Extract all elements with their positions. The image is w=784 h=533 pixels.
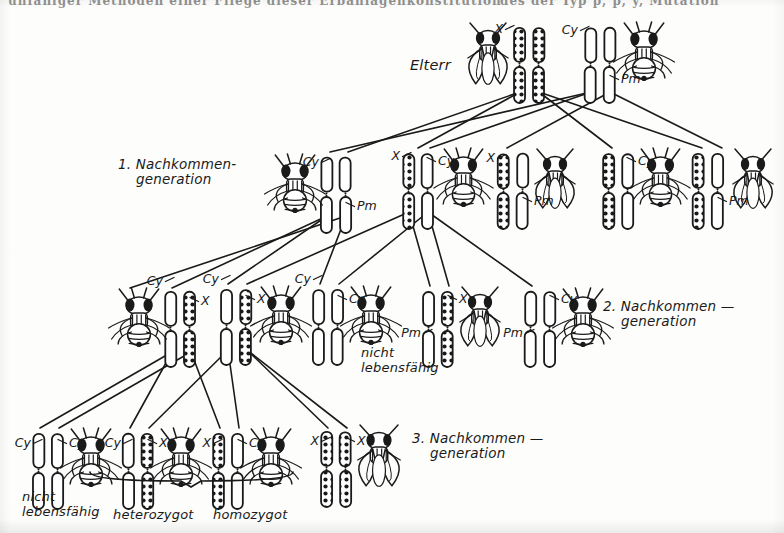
- generation-label-gen2-line2: generation: [603, 314, 735, 329]
- chromosome-tag-Cy: Cy: [303, 154, 320, 169]
- chromosome-X: [603, 154, 614, 229]
- chromosome-X: [340, 432, 352, 507]
- breeding-scheme-svg: XCyPmCyPmXCyXPmCyPmCyXCyXCyCyPmXPmCyCyCy…: [0, 0, 784, 533]
- chromosome-tag-Pm: Pm: [401, 325, 421, 340]
- generation-label-parents-line1: Elterr: [410, 57, 451, 73]
- annotation-nicht-lebensfaehig-gen3: nichtlebensfähig: [22, 490, 100, 519]
- annotation-homozygot-line1: homozygot: [213, 507, 287, 522]
- chromosome-tag-X: X: [390, 148, 400, 163]
- generation-label-gen2: 2. Nachkommen —generation: [603, 299, 735, 329]
- chromosome-X: [321, 432, 332, 507]
- chromosome-Cy: [232, 434, 243, 509]
- chromosome-tag-Cy: Cy: [15, 435, 32, 450]
- cross-line: [330, 92, 591, 152]
- group-g1-a: CyPm: [265, 154, 377, 233]
- cross-line: [430, 92, 591, 148]
- chromosome-Cy: [622, 154, 633, 229]
- fly-chromosome-groups-layer: XCyPmCyPmXCyXPmCyPmCyXCyXCyCyPmXPmCyCyCy…: [15, 21, 773, 509]
- group-g2-e: PmCy: [503, 288, 613, 367]
- chromosome-Cy: [221, 290, 232, 365]
- tag-leader-line: [314, 276, 323, 280]
- chromosome-X: [442, 292, 453, 367]
- chromosome-X: [498, 154, 509, 229]
- chromosome-Pm: [604, 28, 616, 103]
- annotation-nicht-lebensfaehig-gen2-line2: lebensfähig: [361, 361, 439, 376]
- chromosome-tag-Cy: Cy: [638, 153, 655, 168]
- chromosome-X: [514, 28, 525, 103]
- tag-leader-line: [222, 276, 231, 280]
- chromosome-tag-Cy: Cy: [249, 435, 266, 450]
- chromosome-tag-X: X: [485, 150, 495, 165]
- group-g3-c: XCy: [201, 428, 301, 509]
- chromosome-Cy: [321, 158, 332, 233]
- chromosome-Pm: [712, 154, 723, 229]
- generation-label-gen2-line1: 2. Nachkommen —: [603, 298, 735, 314]
- chromosome-tag-Pm: Pm: [534, 193, 554, 208]
- annotation-heterozygot: heterozygot: [113, 508, 194, 523]
- chromosome-tag-Cy: Cy: [562, 22, 579, 37]
- chromosome-tag-Pm: Pm: [357, 198, 377, 213]
- figure-canvas: unfähiger Methoden einer Fliege dieser E…: [0, 0, 784, 533]
- annotation-nicht-lebensfaehig-gen3-line1: nicht: [22, 489, 55, 504]
- annotation-homozygot: homozygot: [213, 508, 287, 523]
- chromosome-tag-X: X: [158, 435, 168, 450]
- chromosome-tag-Cy: Cy: [349, 291, 366, 306]
- group-g1-e: Pm: [693, 149, 774, 229]
- group-g1-b: XCy: [390, 148, 493, 229]
- chromosome-tag-X: X: [256, 291, 266, 306]
- chromosome-Cy: [123, 434, 134, 509]
- chromosome-X: [403, 154, 414, 229]
- chromosome-Cy: [585, 28, 597, 103]
- chromosome-tag-Cy: Cy: [438, 153, 455, 168]
- chromosome-X: [533, 28, 544, 103]
- generation-label-gen1-line1: 1. Nachkommen-: [118, 156, 236, 172]
- generation-label-gen1-line2: generation: [118, 172, 236, 187]
- group-g3-d: XX: [309, 425, 400, 507]
- cross-line: [348, 92, 520, 152]
- chromosome-X: [184, 292, 195, 367]
- group-g1-d: Cy: [603, 148, 690, 229]
- tag-leader-line: [506, 26, 515, 30]
- chromosome-Cy: [422, 154, 433, 229]
- chromosome-Pm: [517, 154, 529, 229]
- chromosome-Pm: [340, 158, 352, 233]
- generation-label-gen1: 1. Nachkommen-generation: [118, 157, 236, 187]
- generation-label-parents: Elterr: [410, 57, 451, 73]
- chromosome-tag-Cy: Cy: [147, 273, 164, 288]
- chromosome-tag-Cy: Cy: [561, 291, 578, 306]
- chromosome-tag-X: X: [309, 433, 319, 448]
- generation-label-gen3-line2: generation: [412, 446, 544, 461]
- group-p-male: CyPm: [562, 22, 675, 103]
- group-g2-a: CyX: [109, 273, 210, 367]
- chromosome-tag-Cy: Cy: [203, 271, 220, 286]
- chromosome-Cy: [544, 292, 555, 367]
- chromosome-X: [693, 154, 704, 229]
- chromosome-tag-Pm: Pm: [503, 325, 523, 340]
- chromosome-Cy: [313, 290, 324, 365]
- cross-line: [610, 92, 722, 148]
- chromosome-Cy: [332, 290, 343, 365]
- annotation-nicht-lebensfaehig-gen2-line1: nicht: [361, 345, 394, 360]
- group-g3-b: CyX: [105, 428, 212, 509]
- cross-line: [40, 352, 172, 428]
- chromosome-X: [213, 434, 224, 509]
- chromosome-tag-Cy: Cy: [295, 271, 312, 286]
- annotation-nicht-lebensfaehig-gen2: nichtlebensfähig: [361, 346, 439, 375]
- annotation-heterozygot-line1: heterozygot: [113, 507, 194, 522]
- generation-label-gen3-line1: 3. Nachkommen —: [412, 430, 544, 446]
- chromosome-tag-Cy: Cy: [69, 435, 86, 450]
- chromosome-tag-X: X: [458, 291, 468, 306]
- chromosome-tag-X: X: [356, 433, 366, 448]
- chromosome-tag-X: X: [201, 435, 211, 450]
- tag-leader-line: [166, 278, 175, 282]
- chromosome-tag-Pm: Pm: [621, 71, 641, 86]
- chromosome-X: [142, 434, 154, 509]
- chromosome-Cy: [165, 292, 176, 367]
- group-p-female: X: [468, 21, 545, 103]
- chromosome-tag-Cy: Cy: [105, 435, 122, 450]
- annotation-nicht-lebensfaehig-gen3-line2: lebensfähig: [22, 505, 100, 520]
- chromosome-tag-Pm: Pm: [729, 193, 749, 208]
- fly-ventral: [109, 288, 170, 347]
- group-g1-c: XPm: [485, 149, 575, 229]
- cross-line: [539, 92, 702, 148]
